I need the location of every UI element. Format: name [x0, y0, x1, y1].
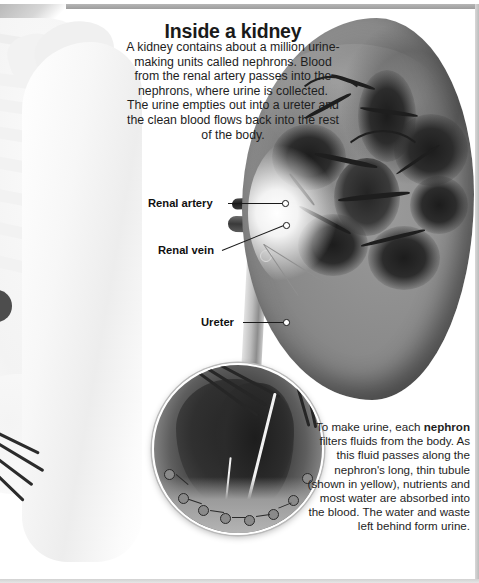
- leader-dot-renal-vein: [283, 222, 290, 229]
- caption-suffix: filters fluids from the body. As this fl…: [308, 434, 470, 532]
- nephron-caption: To make urine, each nephron filters flui…: [302, 420, 470, 534]
- glomerulus-2: [178, 493, 189, 504]
- vessel-arch-2: [338, 130, 428, 204]
- leader-ureter: [243, 322, 285, 323]
- nephron-magnified-inset: [152, 363, 324, 535]
- glomerulus-stem-4: [232, 517, 246, 518]
- leader-dot-renal-artery: [282, 200, 289, 207]
- intro-paragraph: A kidney contains about a million urine-…: [126, 40, 340, 142]
- glomerulus-1: [164, 469, 175, 480]
- leader-dot-ureter: [283, 319, 290, 326]
- caption-bold-term: nephron: [424, 420, 470, 433]
- leader-renal-artery: [228, 203, 284, 204]
- glomerulus-3: [198, 505, 209, 516]
- label-ureter: Ureter: [201, 316, 234, 328]
- caption-prefix: To make urine, each: [316, 420, 424, 433]
- label-renal-artery: Renal artery: [148, 197, 213, 209]
- arm-soft-tissue: [22, 42, 142, 562]
- figure-canvas: Inside a kidney A kidney contains about …: [0, 0, 479, 583]
- glomerulus-4: [220, 513, 231, 524]
- renal-cortex-band: [154, 477, 322, 533]
- label-renal-vein: Renal vein: [158, 244, 214, 256]
